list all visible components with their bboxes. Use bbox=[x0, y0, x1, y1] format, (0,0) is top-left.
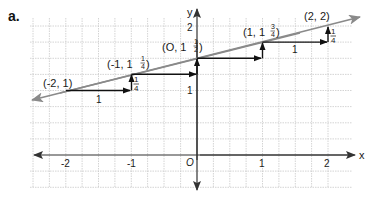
svg-text:1: 1 bbox=[141, 55, 145, 62]
y-axis-label: y bbox=[187, 6, 193, 18]
point-label-2: (2, 2) bbox=[304, 10, 330, 22]
y-tick-2: 2 bbox=[187, 22, 193, 33]
x-axis-label: x bbox=[359, 149, 365, 161]
svg-text:1: 1 bbox=[331, 27, 336, 36]
origin-label: O bbox=[186, 157, 194, 168]
svg-text:4: 4 bbox=[134, 84, 139, 93]
sloped-line-up bbox=[60, 17, 360, 93]
y-tick-1: 1 bbox=[187, 85, 193, 96]
svg-text:2: 2 bbox=[194, 46, 198, 53]
x-tick-neg1: -1 bbox=[127, 158, 136, 169]
part-label: a. bbox=[8, 8, 20, 24]
x-tick-2: 2 bbox=[324, 158, 330, 169]
svg-text:(-1, 1: (-1, 1 bbox=[107, 58, 133, 70]
run-label-1: 1 bbox=[96, 94, 102, 105]
point-label-0: (O, 1 1 2 ) bbox=[162, 38, 203, 53]
svg-text:4: 4 bbox=[331, 36, 336, 45]
x-tick-neg2: -2 bbox=[61, 158, 70, 169]
graph-canvas: x y O -2 -1 1 2 1 2 1 1 1 1 4 bbox=[0, 0, 366, 199]
svg-text:): ) bbox=[199, 41, 203, 53]
svg-text:): ) bbox=[146, 58, 150, 70]
svg-text:4: 4 bbox=[271, 31, 275, 38]
svg-text:1: 1 bbox=[134, 75, 139, 84]
point-label-1: (1, 1 3 4 ) bbox=[243, 23, 280, 38]
coordinate-graph: a. bbox=[0, 0, 366, 199]
svg-text:4: 4 bbox=[141, 63, 145, 70]
svg-text:3: 3 bbox=[271, 23, 275, 30]
rise-label-1: 1 4 bbox=[134, 75, 140, 93]
run-label-4: 1 bbox=[292, 44, 298, 55]
svg-text:(1, 1: (1, 1 bbox=[243, 26, 265, 38]
point-label-neg2: (-2, 1) bbox=[43, 77, 72, 89]
svg-text:(O, 1: (O, 1 bbox=[162, 41, 186, 53]
x-tick-1: 1 bbox=[259, 158, 265, 169]
point-label-neg1: (-1, 1 1 4 ) bbox=[107, 55, 150, 70]
svg-text:1: 1 bbox=[194, 38, 198, 45]
svg-text:): ) bbox=[276, 26, 280, 38]
rise-label-4: 1 4 bbox=[331, 27, 337, 45]
